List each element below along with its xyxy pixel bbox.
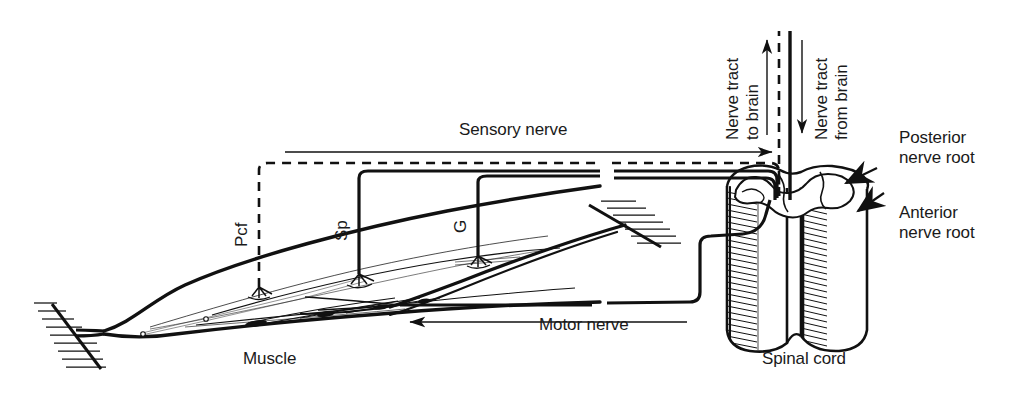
skeletal-muscle-belly [104,186,600,337]
motor-nerve-label: Motor nerve [539,315,629,335]
anterior-nerve-root-label: Anterior nerve root [899,203,975,243]
posterior-nerve-root-label: Posterior nerve root [899,128,975,168]
motor-efferent-pathway [300,200,770,314]
reflex-arc-diagram: Sensory nerve Motor nerve Muscle Spinal … [0,0,1033,399]
receptor-label-sp: Sp [332,220,352,241]
spinal-cord-label: Spinal cord [762,349,846,369]
sp-afferent-pathway [359,171,777,274]
muscle-label: Muscle [243,349,296,369]
receptor-label-g: G [451,220,471,233]
nerve-tract-from-brain-label: Nerve tract from brain [812,58,852,140]
bone-attachment-origin [34,303,106,369]
diagram-canvas [0,0,1033,399]
sensory-nerve-label: Sensory nerve [459,120,567,140]
nerve-tract-to-brain-label: Nerve tract to brain [723,58,763,140]
tendon-attachment-insertion [390,201,681,315]
receptor-label-pcf: Pcf [232,223,252,247]
